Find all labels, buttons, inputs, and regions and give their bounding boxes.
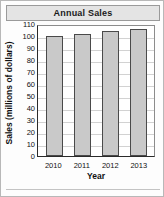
x-axis-tick-labels: 2010201120122013 <box>37 159 155 171</box>
bar[interactable] <box>74 34 91 156</box>
y-tick-label: 50 <box>27 93 35 101</box>
y-tick-label: 70 <box>27 69 35 77</box>
bar-slot <box>68 26 96 156</box>
chart-title: Annual Sales <box>54 8 113 18</box>
bar-slot <box>96 26 124 156</box>
y-tick-label: 30 <box>27 117 35 125</box>
x-tick-label: 2010 <box>39 161 68 170</box>
chart-title-band: Annual Sales <box>6 5 160 21</box>
y-tick-label: 90 <box>27 45 35 53</box>
x-tick-label: 2011 <box>68 161 97 170</box>
y-axis-tick-labels: 0102030405060708090100110 <box>15 25 35 157</box>
footer-divider <box>6 189 160 190</box>
x-tick-label: 2013 <box>125 161 154 170</box>
y-tick-label: 80 <box>27 57 35 65</box>
y-tick-label: 100 <box>22 33 35 41</box>
y-axis-title: Sales (millions of dollars) <box>4 42 14 145</box>
bar-slot <box>40 26 68 156</box>
y-tick-label: 20 <box>27 129 35 137</box>
chart-figure: Annual Sales Sales (millions of dollars)… <box>0 0 164 197</box>
bar[interactable] <box>102 31 119 156</box>
plot-area <box>37 25 155 157</box>
y-tick-label: 40 <box>27 105 35 113</box>
x-axis-title: Year <box>37 171 155 181</box>
y-tick-label: 60 <box>27 81 35 89</box>
bar[interactable] <box>130 29 147 156</box>
bar-slot <box>124 26 152 156</box>
bar-series <box>38 26 154 156</box>
bar[interactable] <box>46 36 63 156</box>
y-tick-label: 10 <box>27 141 35 149</box>
y-tick-label: 110 <box>23 21 35 29</box>
x-tick-label: 2012 <box>96 161 125 170</box>
y-tick-label: 0 <box>31 153 35 161</box>
